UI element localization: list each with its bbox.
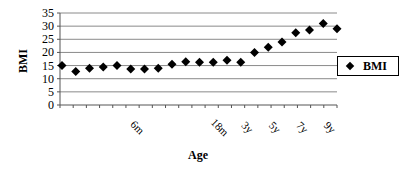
svg-text:7y: 7y bbox=[294, 119, 311, 136]
svg-text:30: 30 bbox=[42, 19, 54, 33]
svg-text:20: 20 bbox=[42, 45, 54, 59]
bmi-chart: 05101520253035 6m18m3y5y7y9y bbox=[0, 0, 408, 171]
svg-text:5y: 5y bbox=[267, 119, 284, 136]
diamond-marker-icon bbox=[346, 62, 354, 70]
svg-text:3y: 3y bbox=[239, 119, 256, 136]
svg-text:18m: 18m bbox=[209, 116, 232, 139]
svg-text:6m: 6m bbox=[128, 118, 147, 137]
svg-text:25: 25 bbox=[42, 32, 54, 46]
svg-text:15: 15 bbox=[42, 59, 54, 73]
x-tick-labels: 6m18m3y5y7y9y bbox=[128, 116, 338, 139]
y-axis-ticks: 05101520253035 bbox=[42, 6, 60, 112]
legend: BMI bbox=[337, 56, 399, 76]
svg-text:35: 35 bbox=[42, 6, 54, 20]
data-points bbox=[58, 19, 342, 76]
x-axis-label: Age bbox=[188, 148, 208, 163]
y-axis-label: BMI bbox=[8, 46, 38, 76]
gridlines bbox=[60, 13, 337, 92]
svg-text:10: 10 bbox=[42, 72, 54, 86]
legend-entry-bmi: BMI bbox=[363, 59, 387, 74]
svg-text:9y: 9y bbox=[322, 119, 339, 136]
svg-text:0: 0 bbox=[48, 98, 54, 112]
svg-text:5: 5 bbox=[48, 85, 54, 99]
